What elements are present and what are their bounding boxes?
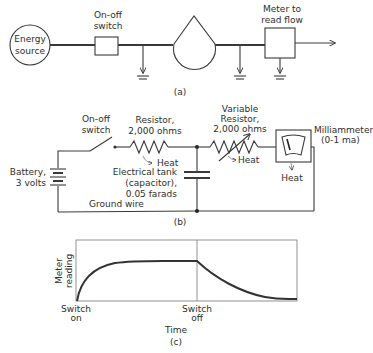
caption-c: (c)	[170, 337, 182, 347]
x-tick-switch-on-2: on	[70, 313, 81, 323]
variable-resistor-label-3: 2,000 ohms	[213, 124, 267, 134]
caption-a: (a)	[174, 87, 187, 97]
diagram-b: Battery, 3 volts On-off switch Resistor,…	[10, 104, 373, 227]
capacitor-label-2: (capacitor),	[125, 178, 177, 188]
variable-heat-label: Heat	[238, 155, 260, 165]
switch-label-2: switch	[94, 21, 123, 31]
variable-resistor-icon	[210, 141, 258, 153]
diagram-c-chart: Meter reading Switch on Switch off Time …	[54, 240, 297, 347]
switch-b-label-1: On-off	[82, 114, 111, 124]
y-axis-label-2: reading	[64, 254, 74, 288]
meter-box	[265, 28, 295, 58]
meter-label-1: Meter to	[263, 4, 301, 14]
capacitor-label-1: Electrical tank	[113, 167, 178, 177]
heat-arrow	[228, 156, 236, 160]
milliammeter-label-2: (0-1 ma)	[321, 135, 360, 145]
resistor-icon	[130, 141, 168, 153]
meter-label-2: read flow	[261, 15, 303, 25]
caption-b: (b)	[174, 217, 187, 227]
variable-resistor-label-1: Variable	[222, 104, 259, 114]
battery-label-2: 3 volts	[16, 178, 46, 188]
meter-reading-curve	[77, 261, 297, 301]
variable-resistor-label-2: Resistor,	[221, 114, 260, 124]
capacitor-label-3: 0.05 farads	[126, 189, 178, 199]
heat-arrow	[291, 163, 292, 170]
resistor-label-2: 2,000 ohms	[128, 126, 182, 136]
wire	[58, 151, 90, 168]
resistor-label-1: Resistor,	[136, 115, 175, 125]
milliammeter-heat-label: Heat	[281, 173, 303, 183]
diagram-a: Energy source On-off switch Meter to rea…	[10, 4, 335, 97]
energy-source-label-1: Energy	[14, 34, 46, 44]
heat-arrow	[143, 156, 152, 163]
figure-canvas: Energy source On-off switch Meter to rea…	[0, 0, 373, 353]
chart-frame	[76, 240, 297, 301]
x-tick-switch-off-2: off	[191, 313, 204, 323]
switch-b-label-2: switch	[82, 125, 111, 135]
battery-label-1: Battery,	[10, 167, 46, 177]
milliammeter-label-1: Milliammeter	[314, 125, 373, 135]
switch-label-1: On-off	[94, 10, 123, 20]
energy-source-label-2: source	[15, 46, 45, 56]
x-axis-label: Time	[164, 325, 187, 335]
energy-source-circle	[10, 25, 50, 65]
switch-lever	[90, 137, 112, 151]
y-axis-label-1: Meter	[54, 258, 64, 284]
switch-box	[95, 37, 118, 55]
junction	[195, 209, 199, 213]
milliammeter-needle	[287, 139, 290, 150]
device-shape	[174, 16, 216, 70]
milliammeter-dial-icon	[282, 135, 305, 155]
ground-wire	[58, 211, 314, 212]
ground-wire-label: Ground wire	[89, 199, 144, 209]
